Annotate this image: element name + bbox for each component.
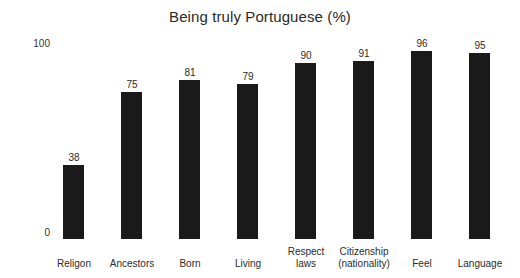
plot-area: 100 0 38Religon75Ancestors81Born79Living… bbox=[0, 0, 520, 278]
bar-chart: Being truly Portuguese (%) 100 0 38Relig… bbox=[0, 0, 520, 278]
bar[interactable] bbox=[179, 80, 200, 239]
x-axis-category-label: Born bbox=[157, 258, 223, 270]
bar[interactable] bbox=[469, 53, 490, 239]
category-label-line: Respect bbox=[273, 246, 339, 258]
bar-value-label: 96 bbox=[393, 38, 451, 49]
bar-value-label: 81 bbox=[161, 67, 219, 78]
x-axis-category-label: Language bbox=[447, 258, 513, 270]
bar-value-label: 75 bbox=[103, 79, 161, 90]
category-label-line: Born bbox=[157, 258, 223, 270]
bar[interactable] bbox=[237, 84, 258, 239]
bar[interactable] bbox=[411, 51, 432, 239]
y-axis-tick-100: 100 bbox=[10, 38, 50, 49]
bar-value-label: 95 bbox=[451, 40, 509, 51]
bar[interactable] bbox=[63, 165, 84, 239]
category-label-line: Citizenship bbox=[331, 246, 397, 258]
x-axis-category-label: Ancestors bbox=[99, 258, 165, 270]
x-axis-category-label: Respectlaws bbox=[273, 246, 339, 269]
bar[interactable] bbox=[353, 61, 374, 239]
y-axis-tick-0: 0 bbox=[10, 227, 50, 238]
category-label-line: Language bbox=[447, 258, 513, 270]
bar-value-label: 90 bbox=[277, 50, 335, 61]
category-label-line: Living bbox=[215, 258, 281, 270]
bar[interactable] bbox=[121, 92, 142, 239]
bar-value-label: 38 bbox=[45, 152, 103, 163]
category-label-line: Ancestors bbox=[99, 258, 165, 270]
x-axis-category-label: Citizenship(nationality) bbox=[331, 246, 397, 269]
bar[interactable] bbox=[295, 63, 316, 239]
x-axis-category-label: Living bbox=[215, 258, 281, 270]
category-label-line: laws bbox=[273, 258, 339, 270]
x-axis-category-label: Feel bbox=[389, 258, 455, 270]
bar-value-label: 91 bbox=[335, 48, 393, 59]
category-label-line: Religon bbox=[41, 258, 107, 270]
bar-value-label: 79 bbox=[219, 71, 277, 82]
category-label-line: (nationality) bbox=[331, 258, 397, 270]
x-axis-category-label: Religon bbox=[41, 258, 107, 270]
category-label-line: Feel bbox=[389, 258, 455, 270]
